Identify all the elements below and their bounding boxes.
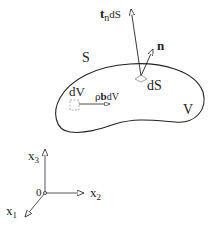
volume-label: V [183, 102, 193, 117]
axis-x1 [25, 193, 45, 217]
origin-label: 0 [36, 186, 42, 198]
traction-arrow [131, 9, 141, 76]
normal-arrow [141, 49, 153, 76]
traction-label: tndS [100, 6, 121, 23]
normal-label: n [157, 38, 165, 53]
origin-point [44, 192, 47, 195]
surface-label: S [82, 50, 90, 65]
axis-x1-label: x1 [6, 203, 17, 220]
axis-x2-label: x2 [90, 185, 101, 202]
volume-element-label: dV [69, 84, 86, 99]
axis-x3-label: x3 [28, 148, 40, 165]
surface-element-patch [135, 75, 147, 82]
volume-element-box [70, 100, 79, 110]
surface-element-label: dS [147, 78, 162, 93]
body-force-label: ρbdV [95, 90, 120, 102]
continuum-body-diagram: tndS n S dS V dV ρbdV x3 x2 x1 0 [0, 0, 208, 234]
